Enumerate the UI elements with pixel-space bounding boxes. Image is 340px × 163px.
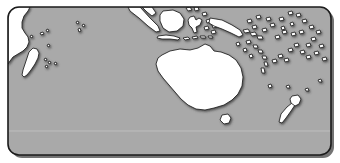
borneo: [160, 10, 184, 32]
map-figure: [0, 0, 340, 163]
map-canvas: [0, 0, 340, 163]
